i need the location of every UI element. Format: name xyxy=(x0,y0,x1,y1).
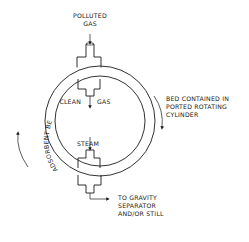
outlet-label-line3: AND/OR STILL xyxy=(118,210,164,217)
inlet-label-line1: POLLUTED xyxy=(73,12,107,19)
outlet-port xyxy=(78,175,101,193)
steam-port xyxy=(78,150,100,168)
inlet-port xyxy=(77,43,101,68)
clean-gas-port xyxy=(78,79,100,96)
inner-ring xyxy=(55,76,145,166)
ring-label: ADSORBENT BED xyxy=(0,0,59,173)
rotation-arrow-left-icon xyxy=(18,133,28,167)
arrow-right-icon xyxy=(90,193,108,199)
bed-label-line2: PORTED ROTATING xyxy=(166,103,227,110)
adsorber-diagram: POLLUTED GAS CLEAN GAS STEAM BED CONTAIN… xyxy=(0,0,249,242)
inlet-label-line2: GAS xyxy=(83,20,97,27)
clean-gas-label-left: CLEAN xyxy=(59,98,81,105)
steam-label: STEAM xyxy=(77,140,99,147)
bed-label-line1: BED CONTAINED IN xyxy=(166,95,229,102)
outlet-label-line1: TO GRAVITY xyxy=(117,194,157,201)
outlet-label-line2: SEPARATOR xyxy=(118,202,156,209)
clean-gas-label-right: GAS xyxy=(97,98,111,105)
bed-label-line3: CYLINDER xyxy=(166,111,199,118)
